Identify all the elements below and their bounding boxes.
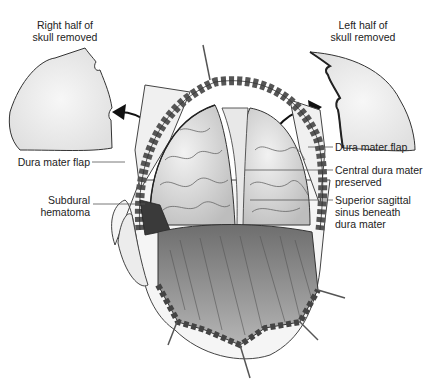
label-line: Right half of [20,19,110,31]
arrow-head-left-icon [112,104,126,120]
label-dura-flap-right: Dura mater flap [335,141,435,153]
label-line: preserved [335,176,435,188]
label-line: Left half of [318,19,408,31]
label-line: Central dura mater [335,164,435,176]
label-superior-sagittal: Superior sagittal sinus beneath dura mat… [335,194,435,230]
right-skull-piece [9,48,112,151]
left-skull-piece [310,52,415,151]
label-line: Subdural [20,194,90,206]
label-dura-flap-left: Dura mater flap [0,156,90,168]
label-line: dura mater [335,218,435,230]
label-central-dura: Central dura mater preserved [335,164,435,188]
label-left-half-skull: Left half of skull removed [318,19,408,43]
label-line: Superior sagittal [335,194,435,206]
label-line: hematoma [20,206,90,218]
label-right-half-skull: Right half of skull removed [20,19,110,43]
label-line: skull removed [20,31,110,43]
craniotomy-illustration [0,0,437,386]
label-subdural-hematoma: Subdural hematoma [20,194,90,218]
label-line: sinus beneath [335,206,435,218]
label-line: skull removed [318,31,408,43]
